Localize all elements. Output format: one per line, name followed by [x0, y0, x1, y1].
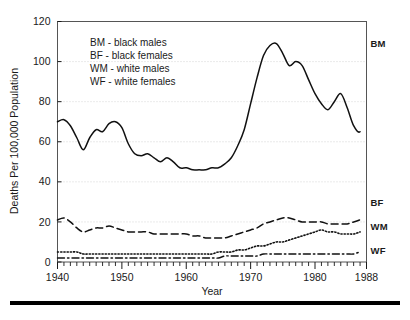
y-tick-label: 20 [39, 216, 51, 228]
legend-line: WF - white females [90, 76, 176, 87]
y-tick-label: 0 [45, 256, 51, 268]
legend-line: WM - white males [90, 63, 169, 74]
legend-line: BM - black males [90, 37, 167, 48]
series-end-labels: BMBFWMWF [371, 38, 388, 256]
x-axis-ticks [58, 262, 367, 269]
series-tag-wf: WF [371, 245, 386, 256]
chart-figure: 020406080100120 194019501960197019801988… [0, 0, 410, 320]
x-tick-label: 1960 [175, 271, 199, 283]
series-tag-bm: BM [371, 38, 386, 49]
x-tick-label: 1950 [110, 271, 134, 283]
legend: BM - black malesBF - black femalesWM - w… [90, 37, 176, 87]
y-tick-label: 40 [39, 175, 51, 187]
y-axis-ticks [58, 22, 62, 263]
x-tick-label: 1980 [303, 271, 327, 283]
x-axis-title: Year [201, 285, 223, 297]
series-line-bf [58, 218, 361, 238]
series-tag-bf: BF [371, 197, 384, 208]
y-tick-label: 120 [33, 15, 51, 27]
bottom-divider-rule [10, 301, 400, 305]
y-tick-label: 60 [39, 135, 51, 147]
legend-line: BF - black females [90, 50, 173, 61]
x-axis-tick-labels: 194019501960197019801988 [46, 271, 379, 283]
x-tick-label: 1988 [355, 271, 379, 283]
y-axis-title: Deaths Per 100,000 Population [8, 68, 20, 214]
series-line-wf [58, 252, 361, 258]
line-chart: 020406080100120 194019501960197019801988… [0, 0, 410, 320]
y-axis-tick-labels: 020406080100120 [33, 15, 51, 268]
series-line-wm [58, 230, 361, 254]
y-tick-label: 100 [33, 55, 51, 67]
x-tick-label: 1970 [239, 271, 263, 283]
y-tick-label: 80 [39, 95, 51, 107]
series-tag-wm: WM [371, 221, 388, 232]
x-tick-label: 1940 [46, 271, 70, 283]
